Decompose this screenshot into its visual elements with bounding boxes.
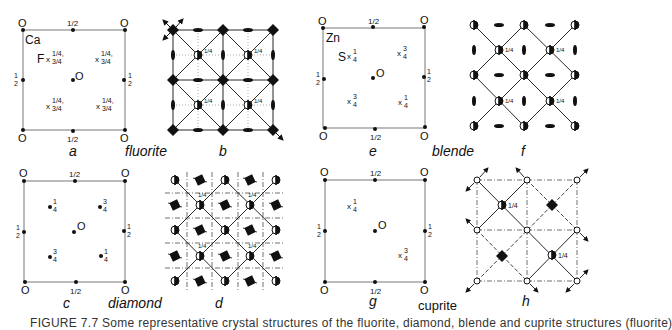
figure-caption: FIGURE 7.7 Some representative crystal s… xyxy=(30,316,672,330)
svg-text:O: O xyxy=(320,284,329,296)
svg-text:1/4: 1/4 xyxy=(505,47,514,53)
svg-text:O: O xyxy=(319,130,328,142)
svg-text:x: x xyxy=(347,52,351,61)
structure-name-blende: blende xyxy=(432,143,474,159)
svg-text:3: 3 xyxy=(353,93,357,100)
svg-text:1: 1 xyxy=(127,223,131,230)
svg-text:3: 3 xyxy=(53,248,57,255)
svg-text:1/4: 1/4 xyxy=(508,202,518,209)
svg-text:1/2: 1/2 xyxy=(69,170,81,179)
svg-text:2: 2 xyxy=(127,231,131,238)
svg-text:1/4: 1/4 xyxy=(198,243,207,249)
structure-name-diamond: diamond xyxy=(108,295,163,311)
svg-text:1: 1 xyxy=(404,94,408,101)
structure-name-fluorite: fluorite xyxy=(125,143,167,159)
svg-text:O: O xyxy=(376,67,385,79)
svg-text:2: 2 xyxy=(14,80,18,87)
svg-text:1/4,: 1/4, xyxy=(102,97,114,104)
svg-text:3/4: 3/4 xyxy=(52,58,62,65)
svg-text:4: 4 xyxy=(353,56,357,63)
svg-text:O: O xyxy=(75,70,84,82)
svg-text:3/4: 3/4 xyxy=(102,105,112,112)
svg-text:O: O xyxy=(19,167,28,179)
svg-text:1/4: 1/4 xyxy=(505,98,514,104)
svg-text:2: 2 xyxy=(317,231,321,238)
svg-text:3: 3 xyxy=(404,247,408,254)
svg-text:O: O xyxy=(420,14,429,26)
svg-text:O: O xyxy=(420,130,429,142)
svg-text:O: O xyxy=(420,166,429,178)
svg-text:1: 1 xyxy=(353,48,357,55)
svg-text:1: 1 xyxy=(427,68,431,75)
svg-text:O: O xyxy=(420,284,429,296)
corner-label: O xyxy=(18,17,27,29)
svg-text:1/4: 1/4 xyxy=(204,98,213,104)
svg-text:O: O xyxy=(77,220,86,232)
svg-text:x: x xyxy=(95,55,99,64)
atom-label-s: S xyxy=(338,50,346,64)
atom-label-f: F xyxy=(37,52,44,66)
svg-text:x: x xyxy=(46,55,50,64)
atom-label-zn: Zn xyxy=(326,31,340,45)
svg-text:4: 4 xyxy=(104,256,108,263)
svg-text:1/4: 1/4 xyxy=(248,192,257,198)
svg-text:1/4: 1/4 xyxy=(198,192,207,198)
svg-text:1/4: 1/4 xyxy=(556,98,565,104)
svg-text:x: x xyxy=(397,49,401,58)
svg-text:4: 4 xyxy=(403,53,407,60)
svg-text:1: 1 xyxy=(428,223,432,230)
svg-text:4: 4 xyxy=(103,206,107,213)
svg-text:4: 4 xyxy=(53,256,57,263)
svg-text:1/4,: 1/4, xyxy=(52,97,64,104)
panel-c-diamond-projection: O O O O 1/2 1/2 12 12 O 14 34 34 14 c xyxy=(16,167,131,311)
svg-text:1: 1 xyxy=(317,223,321,230)
panel-letter: e xyxy=(369,143,377,159)
svg-text:3/4: 3/4 xyxy=(52,105,62,112)
svg-text:1/2: 1/2 xyxy=(368,17,380,26)
svg-text:2: 2 xyxy=(428,231,432,238)
svg-text:1/2: 1/2 xyxy=(70,287,82,296)
panel-letter: b xyxy=(219,143,227,159)
svg-text:1: 1 xyxy=(128,72,132,79)
svg-text:1/4: 1/4 xyxy=(204,48,213,54)
panel-letter: a xyxy=(69,143,77,159)
svg-text:1/4: 1/4 xyxy=(558,252,568,259)
svg-text:4: 4 xyxy=(404,102,408,109)
svg-text:x: x xyxy=(398,98,402,107)
svg-text:O: O xyxy=(21,284,30,296)
panel-letter: f xyxy=(521,143,527,159)
svg-text:2: 2 xyxy=(16,232,20,239)
svg-text:1: 1 xyxy=(53,198,57,205)
svg-text:3: 3 xyxy=(403,45,407,52)
svg-text:1: 1 xyxy=(14,72,18,79)
svg-text:x: x xyxy=(46,102,50,111)
svg-text:2: 2 xyxy=(427,76,431,83)
svg-text:1/4,: 1/4, xyxy=(101,50,113,57)
svg-text:1: 1 xyxy=(16,224,20,231)
svg-text:1/2: 1/2 xyxy=(370,169,382,178)
svg-text:1: 1 xyxy=(353,198,357,205)
panel-g-cuprite-projection: O O O O 1/2 1/2 12 12 O x14 x34 g xyxy=(317,166,432,309)
svg-text:x: x xyxy=(347,97,351,106)
svg-text:O: O xyxy=(378,219,387,231)
svg-text:O: O xyxy=(320,166,329,178)
svg-text:2: 2 xyxy=(316,79,320,86)
svg-text:O: O xyxy=(18,132,27,144)
svg-text:O: O xyxy=(121,167,130,179)
svg-text:1/4: 1/4 xyxy=(248,243,257,249)
edge-height-label: 1/2 xyxy=(67,19,79,28)
svg-text:1/4,: 1/4, xyxy=(52,50,64,57)
panel-a-fluorite-projection: O O O O 1/2 1/2 12 12 O Ca F x1/4,3/4 x1… xyxy=(14,17,132,159)
svg-text:4: 4 xyxy=(404,255,408,262)
atom-label-ca: Ca xyxy=(25,33,41,47)
svg-text:3/4: 3/4 xyxy=(101,58,111,65)
svg-text:2: 2 xyxy=(128,80,132,87)
svg-text:O: O xyxy=(318,15,327,27)
svg-text:1: 1 xyxy=(316,71,320,78)
panel-b-fluorite-symmetry: 1/4 1/4 1/4 1/4 b xyxy=(163,19,283,159)
panel-d-diamond-symmetry: 1/4 1/4 1/4 1/4 d xyxy=(165,172,285,311)
panel-e-blende-projection: O O O O 1/2 1/2 12 12 O Zn S x14 x34 x34… xyxy=(316,14,431,159)
panel-f-blende-symmetry: 1/4 1/4 1/4 1/4 f xyxy=(470,20,579,159)
structure-name-cuprite: cuprite xyxy=(418,298,457,313)
